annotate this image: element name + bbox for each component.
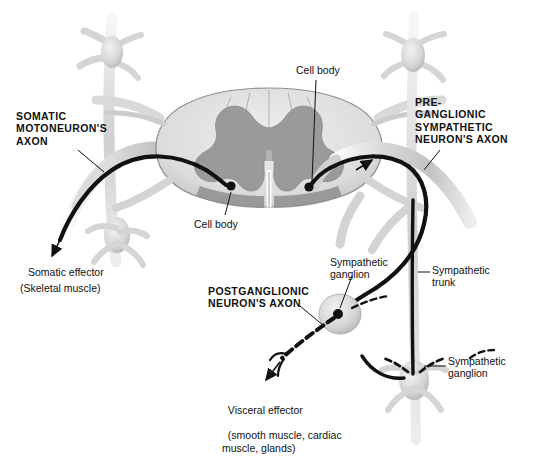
sympathetic-ganglion-upper xyxy=(319,294,361,334)
label-preganglionic-sympathetic-axon: PRE- GANGLIONIC SYMPATHETIC NEURON'S AXO… xyxy=(415,96,508,146)
label-postganglionic-neuron-axon: POSTGANGLIONIC NEURON'S AXON xyxy=(208,285,309,310)
label-somatic-motoneuron-axon: SOMATIC MOTONEURON'S AXON xyxy=(16,110,107,147)
label-visceral-effector: Visceral effector (smooth muscle, cardia… xyxy=(222,392,342,454)
visceral-effector-title: Visceral effector xyxy=(228,404,303,416)
preganglionic-cell-body-dot xyxy=(304,182,313,191)
somatic-cell-body-dot xyxy=(226,181,235,190)
label-sympathetic-ganglion-upper: Sympathetic ganglion xyxy=(330,256,388,281)
label-cell-body-bottom: Cell body xyxy=(194,218,238,230)
label-sympathetic-ganglion-lower: Sympathetic ganglion xyxy=(448,355,506,380)
visceral-effector-detail: (smooth muscle, cardiac muscle, glands) xyxy=(222,429,342,453)
label-cell-body-top: Cell body xyxy=(296,64,340,76)
label-sympathetic-trunk: Sympathetic trunk xyxy=(432,264,490,289)
label-skeletal-muscle: (Skeletal muscle) xyxy=(20,282,101,294)
label-somatic-effector: Somatic effector xyxy=(28,266,104,278)
neuron-pathway-diagram xyxy=(0,0,538,458)
